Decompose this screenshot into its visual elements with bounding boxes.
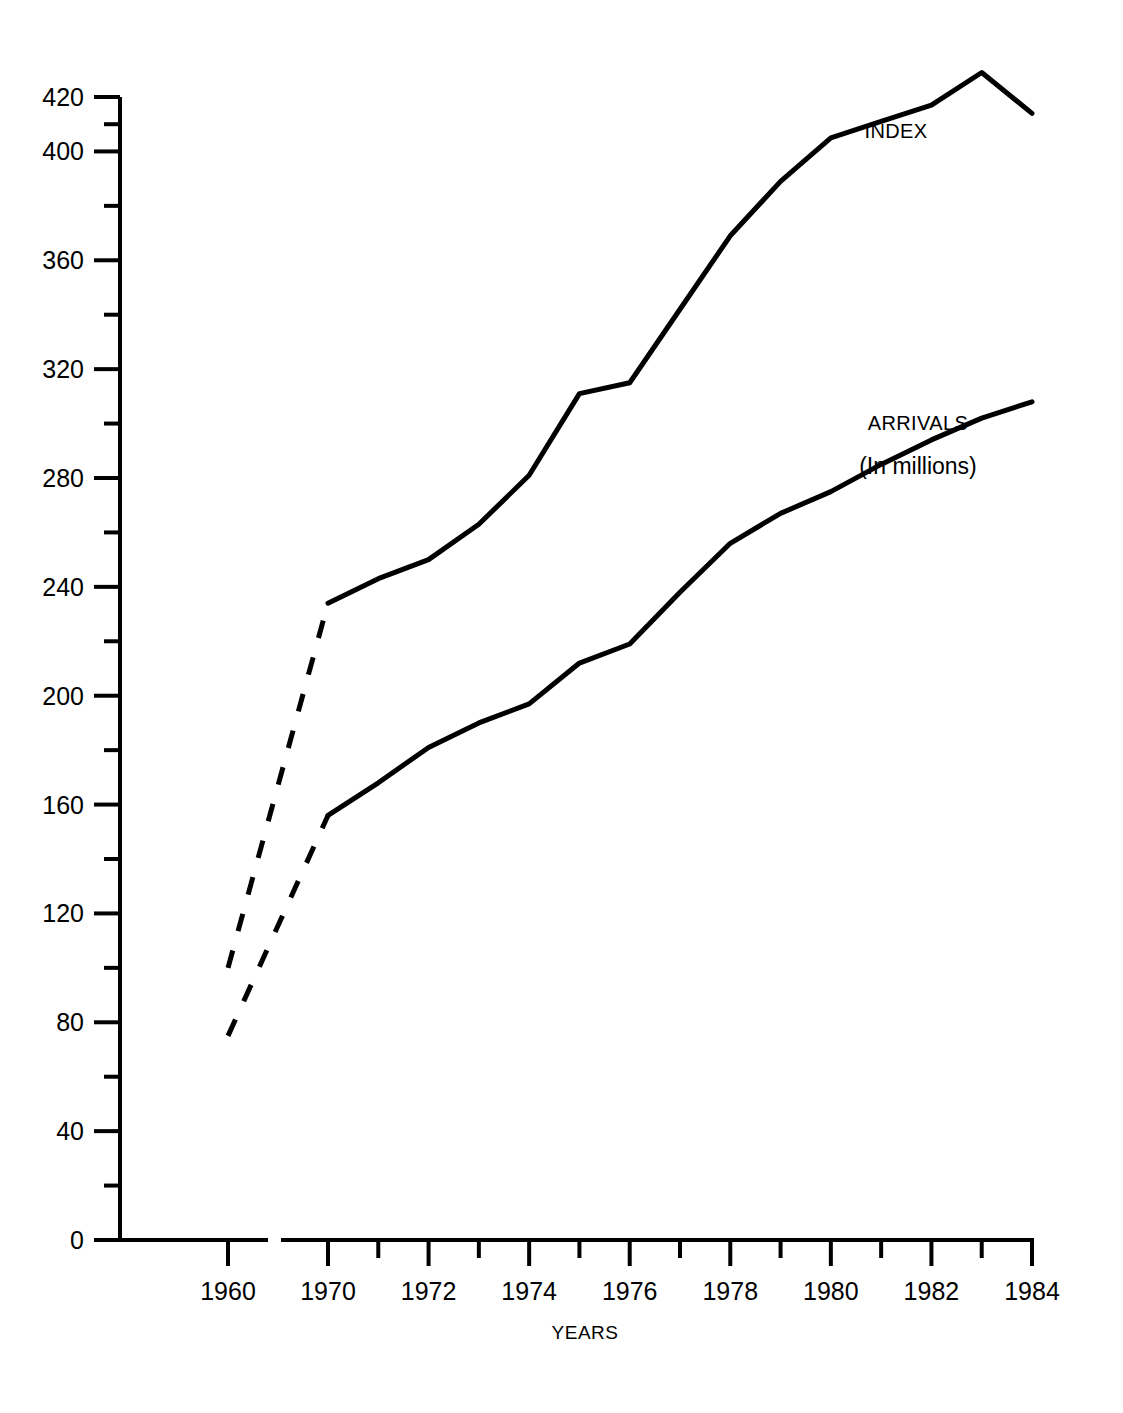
x-tick-label: 1982 — [904, 1277, 960, 1305]
y-tick-label: 240 — [42, 573, 84, 601]
x-tick-label: 1976 — [602, 1277, 658, 1305]
y-tick-label: 280 — [42, 464, 84, 492]
y-tick-label: 0 — [70, 1226, 84, 1254]
x-tick-label: 1970 — [300, 1277, 356, 1305]
line-chart: 04080120160200240280320360400420 1960197… — [0, 0, 1123, 1413]
x-tick-label: 1960 — [200, 1277, 256, 1305]
index-line-solid-segment — [328, 73, 1032, 604]
y-axis: 04080120160200240280320360400420 — [42, 83, 120, 1254]
y-axis-minor-ticks — [104, 124, 120, 1185]
arrivals-series-sublabel: (In millions) — [859, 453, 977, 479]
y-tick-label: 160 — [42, 791, 84, 819]
y-axis-tick-labels: 04080120160200240280320360400420 — [42, 83, 84, 1254]
chart-canvas: 04080120160200240280320360400420 1960197… — [0, 0, 1123, 1413]
arrivals-line-dashed-segment — [228, 815, 328, 1035]
x-axis-title: YEARS — [552, 1322, 619, 1343]
x-tick-label: 1974 — [501, 1277, 557, 1305]
y-tick-label: 200 — [42, 682, 84, 710]
x-axis-tick-labels: 196019701972197419761978198019821984 — [200, 1277, 1060, 1305]
x-tick-label: 1978 — [702, 1277, 758, 1305]
y-tick-label: 80 — [56, 1008, 84, 1036]
y-tick-label: 360 — [42, 246, 84, 274]
x-axis: 196019701972197419761978198019821984 — [120, 1240, 1060, 1305]
x-tick-label: 1972 — [401, 1277, 457, 1305]
y-axis-major-ticks — [94, 97, 120, 1240]
y-tick-label: 400 — [42, 137, 84, 165]
x-axis-minor-ticks — [378, 1240, 981, 1258]
y-tick-label: 420 — [42, 83, 84, 111]
x-tick-label: 1984 — [1004, 1277, 1060, 1305]
x-tick-label: 1980 — [803, 1277, 859, 1305]
index-series-label: INDEX — [864, 120, 927, 142]
y-tick-label: 320 — [42, 355, 84, 383]
series-index — [228, 73, 1032, 968]
y-tick-label: 120 — [42, 899, 84, 927]
series-arrivals — [228, 402, 1032, 1036]
index-line-dashed-segment — [228, 603, 328, 968]
x-axis-major-ticks — [228, 1240, 1032, 1266]
y-tick-label: 40 — [56, 1117, 84, 1145]
arrivals-series-label: ARRIVALS — [868, 412, 969, 434]
